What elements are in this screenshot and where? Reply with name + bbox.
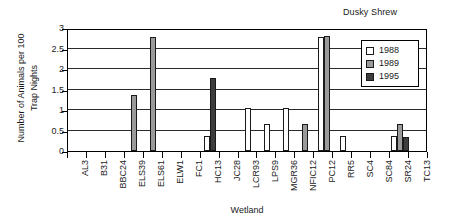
bar-HC13-1995 [210, 78, 216, 151]
legend-swatch-1995 [366, 73, 374, 81]
bar-LCR93-1988 [245, 108, 251, 151]
bar-RR5-1988 [340, 136, 346, 151]
x-tick-mark [162, 152, 163, 158]
bar-PC12-1989 [324, 36, 330, 151]
y-tick-label: 2.5 [24, 44, 64, 54]
dusky-shrew-bar-chart: Dusky Shrew Number of Animals per 100 Tr… [0, 0, 450, 222]
x-tick-mark [332, 152, 333, 158]
x-tick-mark [256, 152, 257, 158]
legend-item-1995: 1995 [366, 70, 414, 83]
y-tick-label: 3 [24, 23, 64, 33]
x-tick-mark [124, 152, 125, 158]
bar-SR24-1995 [403, 137, 409, 151]
x-tick-mark [351, 152, 352, 158]
x-tick-mark [427, 152, 428, 158]
legend-label-1988: 1988 [379, 46, 399, 55]
y-tick-label: 0 [24, 146, 64, 156]
x-tick-mark [67, 152, 68, 158]
bar-MGR36-1988 [283, 108, 289, 151]
legend: 198819891995 [361, 40, 419, 87]
legend-swatch-1988 [366, 47, 374, 55]
y-tick-label: 1 [24, 105, 64, 115]
legend-swatch-1989 [366, 60, 374, 68]
chart-title: Dusky Shrew [300, 7, 440, 17]
legend-label-1995: 1995 [379, 72, 399, 81]
x-tick-mark [294, 152, 295, 158]
bar-ELS61-1989 [150, 37, 156, 151]
x-tick-mark [370, 152, 371, 158]
x-axis-title: Wetland [67, 205, 427, 215]
x-tick-mark [181, 152, 182, 158]
gridline [68, 89, 426, 90]
y-tick-label: 1.5 [24, 85, 64, 95]
x-tick-mark [408, 152, 409, 158]
x-tick-mark [105, 152, 106, 158]
legend-item-1988: 1988 [366, 44, 414, 57]
x-tick-mark [389, 152, 390, 158]
x-tick-mark [238, 152, 239, 158]
bar-NFIC12-1989 [302, 124, 308, 151]
legend-label-1989: 1989 [379, 59, 399, 68]
x-tick-mark [143, 152, 144, 158]
x-tick-mark [275, 152, 276, 158]
bar-LPS9-1988 [264, 124, 270, 151]
legend-item-1989: 1989 [366, 57, 414, 70]
x-tick-mark [200, 152, 201, 158]
x-tick-mark [86, 152, 87, 158]
x-tick-mark [313, 152, 314, 158]
x-tick-mark [219, 152, 220, 158]
bar-ELS39-1989 [131, 95, 137, 151]
y-tick-label: 0.5 [24, 126, 64, 136]
y-tick-label: 2 [24, 64, 64, 74]
